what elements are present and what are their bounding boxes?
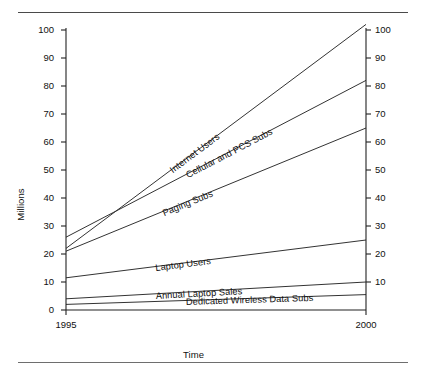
y-axis-right-tick-label: 100 [375,24,405,35]
y-axis-left-tick-label: 10 [24,276,54,287]
y-axis-right-tick-label: 30 [375,220,405,231]
y-axis-right-tick-label: 40 [375,192,405,203]
y-axis-left-tick-label: 80 [24,80,54,91]
series-line-laptop-users [66,240,366,278]
y-axis-right-tick-label: 20 [375,248,405,259]
y-axis-left-tick-label: 0 [24,304,54,315]
axes-lines-group [61,28,371,315]
y-axis-left-tick-label: 70 [24,108,54,119]
y-axis-right-tick-label: 70 [375,108,405,119]
y-axis-left-tick-label: 90 [24,52,54,63]
x-axis-title: Time [183,349,204,360]
y-axis-left-tick-label: 50 [24,164,54,175]
y-axis-right-tick-label: 80 [375,80,405,91]
x-axis-tick-label: 2000 [344,319,388,330]
x-axis-tick-label: 1995 [44,319,88,330]
y-axis-left-tick-label: 30 [24,220,54,231]
y-axis-right-tick-label: 10 [375,276,405,287]
y-axis-right-tick-label: 50 [375,164,405,175]
y-axis-left-tick-label: 60 [24,136,54,147]
y-axis-left-tick-label: 40 [24,192,54,203]
y-axis-left-tick-label: 100 [24,24,54,35]
series-line-paging-subs [66,128,366,251]
y-axis-right-tick-label: 60 [375,136,405,147]
figure-container: Millions Time 01020304050607080901001020… [0,0,426,376]
y-axis-left-tick-label: 20 [24,248,54,259]
y-axis-right-tick-label: 90 [375,52,405,63]
